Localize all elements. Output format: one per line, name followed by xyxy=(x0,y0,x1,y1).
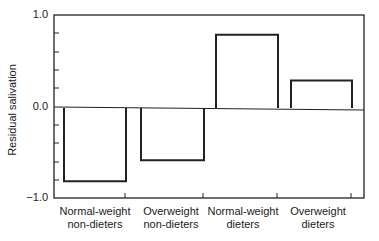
plot-frame xyxy=(54,15,364,198)
y-tick-label-zero: 0.0 xyxy=(18,100,48,112)
bar-2 xyxy=(216,35,278,108)
bar-1 xyxy=(141,108,204,160)
category-label-overweight-dieters: Overweightdieters xyxy=(278,205,358,231)
category-label-normal-weight-non-dieters: Normal-weightnon-dieters xyxy=(55,205,135,231)
x-ticks xyxy=(125,193,351,198)
bar-3 xyxy=(291,81,352,108)
y-tick-label-top: 1.0 xyxy=(18,8,48,20)
category-label-overweight-non-dieters: Overweightnon-dieters xyxy=(131,205,211,231)
zero-line xyxy=(54,107,364,110)
bar-0 xyxy=(64,108,126,181)
category-label-normal-weight-dieters: Normal-weightdieters xyxy=(203,205,283,231)
y-tick-label-bottom: −1.0 xyxy=(18,191,48,203)
